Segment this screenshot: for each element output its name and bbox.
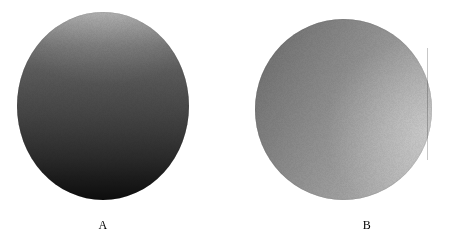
figure-canvas: A B (0, 0, 450, 239)
sphere-a-caption: A (83, 218, 123, 232)
sphere-b-caption: B (347, 218, 387, 232)
sphere-a (17, 12, 189, 200)
sphere-a-edge (17, 12, 189, 200)
sphere-b-edge (255, 19, 432, 200)
sphere-b (255, 19, 432, 200)
